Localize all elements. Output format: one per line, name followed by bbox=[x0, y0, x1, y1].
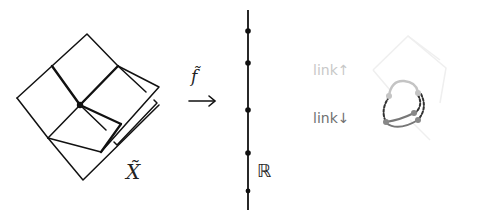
diagram-canvas bbox=[0, 0, 483, 218]
link-down-label: link↓ bbox=[313, 110, 350, 126]
x-tilde-label: X̃ bbox=[126, 160, 140, 184]
link-up-label: link↑ bbox=[313, 62, 350, 78]
x-tilde-complex bbox=[17, 34, 159, 180]
real-line-label: ℝ bbox=[257, 160, 271, 181]
map-arrow bbox=[189, 96, 215, 106]
real-line bbox=[245, 10, 251, 210]
vertex-dot bbox=[77, 102, 83, 108]
f-tilde-label: f̃ bbox=[191, 66, 197, 86]
